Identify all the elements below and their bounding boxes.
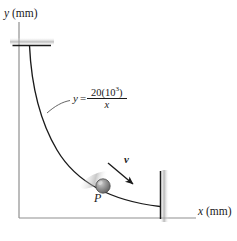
velocity-arrow	[108, 163, 133, 184]
curve-equation: y = 20(103) x	[73, 86, 125, 110]
y-axis-label: y (mm)	[4, 8, 38, 20]
fixed-support-right	[160, 170, 169, 222]
velocity-label: v	[124, 154, 129, 165]
x-axis-unit: (mm)	[206, 205, 232, 217]
numerator-close: )	[119, 87, 123, 98]
particle-label: P	[94, 192, 101, 204]
numerator-base: 20(10	[91, 87, 116, 98]
equation-leader	[47, 101, 70, 114]
x-axis-label: x (mm)	[198, 206, 232, 218]
equation-lhs: y	[73, 92, 78, 104]
figure-canvas: y (mm) x (mm) y = 20(103) x P v	[0, 0, 237, 241]
fixed-support-top	[10, 38, 54, 46]
equation-equals: =	[80, 92, 86, 104]
y-axis-unit: (mm)	[12, 7, 38, 19]
equation-fraction: 20(103) x	[89, 86, 125, 110]
equation-denominator: x	[87, 98, 127, 110]
equation-numerator: 20(103)	[89, 86, 125, 98]
